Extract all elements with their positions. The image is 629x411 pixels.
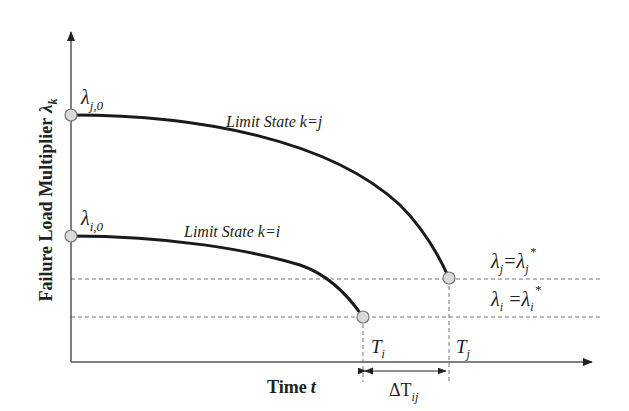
y-axis-label: Failure Load Multiplierλk <box>35 98 60 301</box>
interval-label: ΔTij <box>389 380 419 404</box>
curve-label-j: Limit State k=j <box>225 113 323 131</box>
start-label-i: λi,0 <box>80 207 104 234</box>
end-marker-j <box>443 272 455 284</box>
failure-load-diagram: Failure Load Multiplierλk Timet λj,0 λi,… <box>0 0 629 411</box>
time-label-j: Tj <box>456 336 471 361</box>
start-label-j: λj,0 <box>80 86 104 113</box>
diagram-canvas: Failure Load Multiplierλk Timet λj,0 λi,… <box>0 0 629 411</box>
start-marker-i <box>65 230 77 242</box>
curve-limit-state-i <box>71 236 363 317</box>
threshold-label-i: λi =λi* <box>490 282 542 314</box>
x-axis-label: Timet <box>267 377 317 397</box>
svg-text:Failure Load Multiplierλk: Failure Load Multiplierλk <box>35 98 60 301</box>
time-label-i: Ti <box>371 336 385 361</box>
start-marker-j <box>65 109 77 121</box>
curve-label-i: Limit State k=i <box>183 223 280 240</box>
end-marker-i <box>357 311 369 323</box>
threshold-label-j: λj=λj* <box>490 244 537 276</box>
